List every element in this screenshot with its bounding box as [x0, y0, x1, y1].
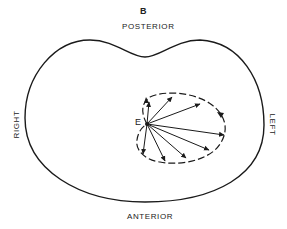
posterior-label: POSTERIOR [122, 22, 175, 31]
left-side-label: LEFT [268, 114, 277, 136]
vector-loop [137, 93, 225, 163]
body-outline [25, 40, 264, 202]
diagram-canvas [0, 0, 287, 229]
instantaneous-vectors [143, 97, 224, 161]
anterior-label: ANTERIOR [127, 212, 173, 221]
panel-label: B [140, 6, 147, 16]
origin-point-e [145, 122, 149, 126]
origin-label: E [135, 117, 141, 127]
right-side-label: RIGHT [12, 111, 21, 139]
